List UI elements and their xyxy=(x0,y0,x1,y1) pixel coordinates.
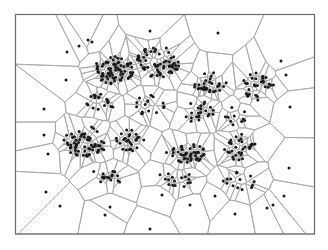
site-point xyxy=(255,72,258,75)
site-point xyxy=(96,70,99,73)
site-point xyxy=(94,145,97,148)
site-point xyxy=(238,178,241,181)
site-point xyxy=(135,138,138,141)
site-point xyxy=(167,178,170,181)
site-point xyxy=(161,194,164,197)
site-point xyxy=(203,72,206,75)
site-point xyxy=(231,123,234,126)
site-point xyxy=(117,61,120,64)
site-point xyxy=(237,151,240,154)
site-point xyxy=(146,66,149,69)
site-point xyxy=(207,115,210,118)
site-point xyxy=(71,136,74,139)
site-point xyxy=(118,181,121,184)
site-point xyxy=(168,64,171,67)
site-point xyxy=(208,90,211,93)
site-point xyxy=(135,146,138,149)
site-point xyxy=(78,130,81,133)
site-point xyxy=(195,115,198,118)
site-point xyxy=(212,90,215,93)
site-point xyxy=(236,186,239,189)
site-point xyxy=(92,106,95,109)
site-point xyxy=(192,143,195,146)
site-point xyxy=(69,146,72,149)
site-point xyxy=(141,112,144,115)
site-point xyxy=(177,151,180,154)
site-point xyxy=(183,185,186,188)
site-point xyxy=(243,119,246,122)
site-point xyxy=(130,73,133,76)
site-point xyxy=(135,133,138,136)
site-point xyxy=(251,77,254,80)
site-point xyxy=(125,148,128,151)
site-point xyxy=(180,160,183,163)
site-point xyxy=(171,176,174,179)
site-point xyxy=(189,181,192,184)
site-point xyxy=(216,85,219,88)
site-point xyxy=(242,79,245,82)
site-point xyxy=(162,106,165,109)
site-point xyxy=(198,114,201,117)
site-point xyxy=(156,74,159,77)
site-point xyxy=(145,53,148,56)
site-point xyxy=(203,100,206,103)
site-point xyxy=(171,63,174,66)
site-point xyxy=(197,83,200,86)
site-point xyxy=(248,146,251,149)
site-point xyxy=(96,67,99,70)
site-point xyxy=(197,159,200,162)
site-point xyxy=(170,56,173,59)
site-point xyxy=(69,144,72,147)
site-point xyxy=(126,64,129,67)
site-point xyxy=(153,63,156,66)
site-point xyxy=(142,139,145,142)
site-point xyxy=(120,57,123,60)
site-point xyxy=(237,139,240,142)
site-point xyxy=(229,178,232,181)
site-point xyxy=(208,81,211,84)
site-point xyxy=(101,72,104,75)
site-point xyxy=(233,114,236,117)
site-point xyxy=(254,84,257,87)
site-point xyxy=(75,139,78,142)
site-point xyxy=(87,39,90,42)
site-point xyxy=(234,146,237,149)
site-point xyxy=(106,77,109,80)
site-point xyxy=(97,96,100,99)
site-point xyxy=(100,140,103,143)
site-point xyxy=(66,51,69,54)
site-point xyxy=(199,111,202,114)
site-point xyxy=(92,127,95,130)
site-point xyxy=(201,148,204,151)
site-point xyxy=(156,68,159,71)
site-point xyxy=(194,154,197,157)
site-point xyxy=(119,64,122,67)
site-point xyxy=(82,133,85,136)
site-point xyxy=(91,41,94,44)
site-point xyxy=(107,67,110,70)
site-point xyxy=(218,89,221,92)
site-point xyxy=(142,56,145,59)
site-point xyxy=(189,204,192,207)
site-point xyxy=(43,108,46,111)
site-point xyxy=(76,154,79,157)
site-point xyxy=(195,158,198,161)
site-point xyxy=(222,85,225,88)
site-point xyxy=(102,172,105,175)
site-point xyxy=(152,95,155,98)
site-point xyxy=(82,154,85,157)
site-point xyxy=(100,75,103,78)
site-point xyxy=(243,145,246,148)
site-point xyxy=(226,151,229,154)
site-point xyxy=(47,153,50,156)
site-point xyxy=(144,59,147,62)
site-point xyxy=(177,64,180,67)
site-point xyxy=(249,175,252,178)
site-point xyxy=(182,154,185,157)
site-point xyxy=(239,153,242,156)
site-point xyxy=(240,140,243,143)
site-point xyxy=(130,143,133,146)
site-point xyxy=(115,140,118,143)
site-point xyxy=(224,115,227,118)
site-point xyxy=(173,180,176,183)
